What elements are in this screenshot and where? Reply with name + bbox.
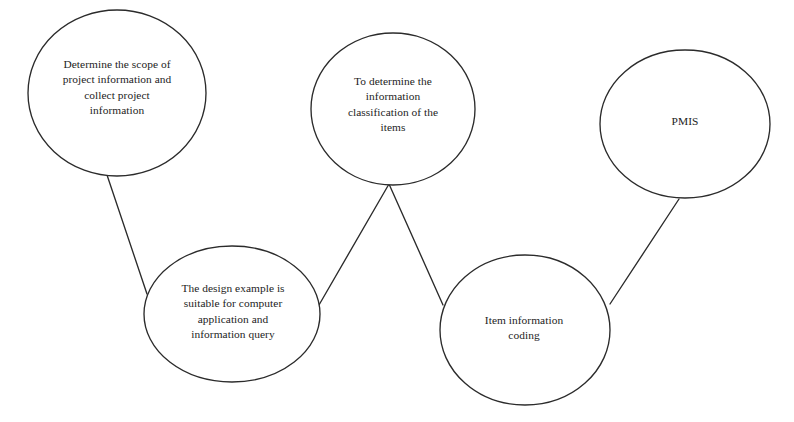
node-ellipse-item-information-coding[interactable] [440, 255, 610, 405]
node-ellipse-scope-collection[interactable] [28, 10, 206, 176]
diagram-canvas: Determine the scope of project informati… [0, 0, 794, 422]
connector-classification-to-design-example [319, 184, 389, 305]
node-ellipse-pmis[interactable] [600, 50, 770, 198]
connector-pmis-to-item-coding [610, 199, 679, 304]
connector-scope-to-design-example [105, 169, 147, 294]
diagram-svg [0, 0, 794, 422]
node-ellipse-information-classification[interactable] [311, 33, 475, 185]
connector-classification-to-item-coding [389, 184, 443, 305]
node-ellipse-design-example[interactable] [144, 246, 320, 382]
